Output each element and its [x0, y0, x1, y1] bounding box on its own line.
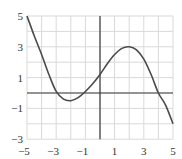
x-tick-label: −5 [18, 145, 30, 157]
x-tick-labels: −5−3−1135 [18, 145, 176, 157]
y-tick-label: 5 [18, 10, 24, 22]
y-tick-label: −3 [11, 133, 23, 145]
y-tick-labels: 531−1−3 [11, 10, 23, 145]
y-tick-label: 1 [18, 72, 24, 84]
x-tick-label: 1 [112, 145, 118, 157]
x-tick-label: 3 [141, 145, 147, 157]
function-chart: −5−3−1135 531−1−3 [0, 0, 182, 159]
x-tick-label: 5 [170, 145, 176, 157]
y-tick-label: 3 [18, 41, 24, 53]
x-tick-label: −3 [47, 145, 59, 157]
x-tick-label: −1 [77, 145, 89, 157]
y-tick-label: −1 [11, 102, 23, 114]
